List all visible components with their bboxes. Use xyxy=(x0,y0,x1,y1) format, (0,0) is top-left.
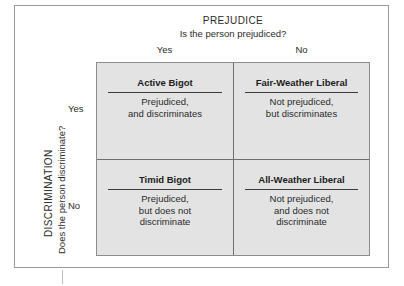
matrix-cell-timid-bigot: Timid Bigot Prejudiced, but does not dis… xyxy=(97,159,233,255)
matrix-cell-all-weather-liberal: All-Weather Liberal Not prejudiced, and … xyxy=(233,159,369,255)
cell-divider-rule xyxy=(108,92,222,93)
cell-title: Active Bigot xyxy=(106,77,224,89)
cell-description-line: and does not xyxy=(243,205,360,217)
cell-description-line: discriminate xyxy=(243,216,360,228)
cell-title: Fair-Weather Liberal xyxy=(243,77,360,89)
row-axis-name: DISCRIMINATION xyxy=(43,149,54,237)
cell-title: Timid Bigot xyxy=(106,174,224,186)
column-label-yes: Yes xyxy=(96,44,233,55)
row-label-yes: Yes xyxy=(68,103,92,114)
cell-description-line: and discriminates xyxy=(106,108,224,120)
cell-description: Prejudiced, and discriminates xyxy=(106,96,224,119)
cell-description-line: Prejudiced, xyxy=(106,96,224,108)
matrix-cell-active-bigot: Active Bigot Prejudiced, and discriminat… xyxy=(97,63,233,159)
column-axis-question: Is the person prejudiced? xyxy=(96,28,370,40)
cell-divider-rule xyxy=(245,92,358,93)
cell-description: Prejudiced, but does not discriminate xyxy=(106,193,224,228)
row-label-no: No xyxy=(68,200,92,211)
cell-title: All-Weather Liberal xyxy=(243,174,360,186)
row-axis-question: Does the person discriminate? xyxy=(56,126,67,254)
column-axis-name: PREJUDICE xyxy=(96,15,370,27)
cell-description-line: Not prejudiced, xyxy=(243,96,360,108)
row-axis-header: DISCRIMINATION Does the person discrimin… xyxy=(0,62,96,256)
page-tick-mark xyxy=(62,270,63,284)
cell-description-line: Prejudiced, xyxy=(106,193,224,205)
cell-description: Not prejudiced, but discriminates xyxy=(243,96,360,119)
cell-description: Not prejudiced, and does not discriminat… xyxy=(243,193,360,228)
cell-description-line: discriminate xyxy=(106,216,224,228)
matrix-cell-fair-weather-liberal: Fair-Weather Liberal Not prejudiced, but… xyxy=(233,63,369,159)
column-label-no: No xyxy=(233,44,370,55)
cell-description-line: but discriminates xyxy=(243,108,360,120)
cell-divider-rule xyxy=(108,189,222,190)
cell-description-line: but does not xyxy=(106,205,224,217)
cell-divider-rule xyxy=(245,189,358,190)
cell-description-line: Not prejudiced, xyxy=(243,193,360,205)
column-axis-header: PREJUDICE Is the person prejudiced? xyxy=(96,15,370,40)
typology-matrix: Active Bigot Prejudiced, and discriminat… xyxy=(96,62,370,256)
